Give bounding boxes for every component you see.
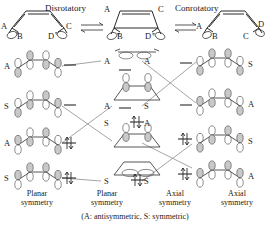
column-caption-2-line1: Planar: [76, 189, 138, 198]
column-caption-4-line2: symmetry: [208, 198, 266, 207]
level-symmetry-col2-2: A: [104, 102, 110, 111]
mo-col4-level2: [196, 92, 244, 118]
level-symmetry-col1-2: S: [4, 102, 9, 111]
level-symmetry-col1-1: A: [4, 62, 10, 71]
label-substituent-D-right: D: [258, 20, 264, 29]
mo-col4-level3: [196, 129, 244, 155]
level-tick-col2-2: [119, 103, 133, 113]
column-caption-3-line2: symmetry: [146, 198, 204, 207]
label-substituent-A-right: A: [196, 22, 202, 31]
label-substituent-A-left: A: [1, 22, 7, 31]
mo-col4-level1: [196, 52, 244, 78]
level-symmetry-col4-4: A: [248, 172, 254, 181]
equilibrium-arrow-conrotatory: [174, 22, 198, 34]
column-caption-2-line2: symmetry: [76, 198, 138, 207]
label-substituent-B-right: B: [212, 32, 218, 41]
equilibrium-arrow-disrotatory: [79, 22, 105, 34]
level-tick-col3-3: [178, 132, 194, 146]
level-symmetry-col4-2: A: [248, 100, 254, 109]
level-symmetry-col1-4: S: [4, 174, 9, 183]
level-tick-col3-1: [180, 58, 194, 68]
level-tick-col3-4: [178, 167, 194, 181]
mo-center-level2: [112, 72, 162, 102]
column-caption-4: Axial symmetry: [208, 189, 266, 207]
mo-col1-level1: [14, 54, 62, 80]
label-substituent-A-center: A: [104, 5, 110, 14]
mo-col4-level4: [196, 164, 244, 190]
mo-center-level3: [112, 116, 162, 148]
mo-col1-level3: [14, 131, 62, 157]
figure-caption: (A: antisymmetric, S: symmetric): [0, 213, 270, 221]
label-substituent-B-center: B: [117, 32, 123, 41]
level-symmetry-col2-3: S: [104, 119, 109, 128]
level-symmetry-col4-3: S: [248, 137, 253, 146]
column-caption-1: Planar symmetry: [6, 189, 68, 207]
label-substituent-D-left: D: [48, 32, 54, 41]
level-symmetry-col4-1: S: [248, 60, 253, 69]
level-symmetry-col3-2: S: [144, 102, 149, 111]
label-substituent-D-center: D: [145, 32, 151, 41]
level-symmetry-col2-1: A: [104, 57, 110, 66]
level-symmetry-col1-3: A: [4, 139, 10, 148]
column-caption-3-line1: Axial: [146, 189, 204, 198]
mo-center-level1: [114, 48, 160, 66]
level-symmetry-col2-4: S: [104, 177, 109, 186]
label-substituent-C-right: C: [243, 32, 249, 41]
column-caption-2: Planar symmetry: [76, 189, 138, 207]
label-substituent-C-center: C: [158, 5, 164, 14]
column-caption-1-line1: Planar: [6, 189, 68, 198]
orbital-correlation-diagram: A B D C Disrotatory A C B D Conrotatory: [0, 0, 270, 226]
column-caption-4-line1: Axial: [208, 189, 266, 198]
disrotatory-label: Disrotatory: [45, 4, 86, 13]
column-caption-1-line2: symmetry: [6, 198, 68, 207]
label-substituent-C-left: C: [66, 22, 72, 31]
level-tick-col1-2: [64, 100, 78, 110]
mo-center-level4: [112, 158, 162, 190]
level-tick-col1-1: [64, 60, 78, 70]
column-caption-3: Axial symmetry: [146, 189, 204, 207]
level-tick-col1-4: [62, 171, 78, 185]
level-tick-col3-2: [180, 100, 194, 110]
label-substituent-B-left: B: [17, 32, 23, 41]
mo-col1-level2: [14, 94, 62, 120]
level-tick-col1-3: [62, 136, 78, 150]
